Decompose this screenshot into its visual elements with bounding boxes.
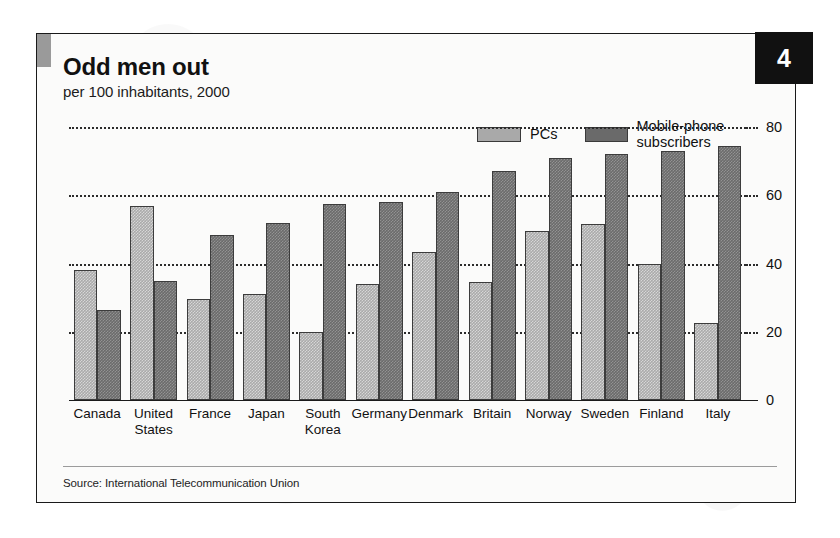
x-axis-labels: CanadaUnited StatesFranceJapanSouth Kore… [69, 406, 746, 452]
gridline-0 [69, 400, 746, 401]
x-axis-label: Norway [520, 406, 576, 422]
bars-layer [69, 127, 746, 400]
x-axis-label: France [182, 406, 238, 422]
bar-pcs[interactable] [638, 264, 662, 401]
tick-stub-60 [746, 195, 758, 197]
x-axis-label: Sweden [577, 406, 633, 422]
bar-mobile[interactable] [661, 151, 685, 400]
x-axis-label: United States [125, 406, 181, 438]
y-axis-tick-label: 80 [766, 119, 782, 135]
bar-pcs[interactable] [130, 206, 154, 401]
bar-group [525, 127, 572, 400]
y-axis-tick-label: 40 [766, 256, 782, 272]
bar-pcs[interactable] [356, 284, 380, 400]
bar-group [356, 127, 403, 400]
bar-group [412, 127, 459, 400]
source-note: Source: International Telecommunication … [63, 477, 299, 489]
bar-pcs[interactable] [525, 231, 549, 400]
bar-group [299, 127, 346, 400]
x-axis-label: South Korea [295, 406, 351, 438]
bar-group [130, 127, 177, 400]
tick-stub-20 [746, 332, 758, 334]
bar-mobile[interactable] [97, 310, 121, 400]
bar-pcs[interactable] [243, 294, 267, 400]
bar-group [638, 127, 685, 400]
bar-pcs[interactable] [299, 332, 323, 400]
bar-group [187, 127, 234, 400]
y-axis-tick-label: 60 [766, 187, 782, 203]
bar-mobile[interactable] [379, 202, 403, 400]
bar-pcs[interactable] [74, 270, 98, 400]
plot-area: 020406080 [69, 127, 746, 400]
bar-pcs[interactable] [187, 299, 211, 400]
tick-stub-80 [746, 127, 758, 129]
x-axis-label: Denmark [408, 406, 464, 422]
x-axis-label: Germany [351, 406, 407, 422]
bar-mobile[interactable] [549, 158, 573, 400]
bar-pcs[interactable] [469, 282, 493, 400]
bar-mobile[interactable] [154, 281, 178, 400]
x-axis-label: Canada [69, 406, 125, 422]
bar-mobile[interactable] [436, 192, 460, 400]
tick-stub-40 [746, 264, 758, 266]
y-axis-tick-label: 20 [766, 324, 782, 340]
chart-subtitle: per 100 inhabitants, 2000 [63, 83, 230, 100]
bar-mobile[interactable] [210, 235, 234, 401]
bar-pcs[interactable] [412, 252, 436, 400]
bar-mobile[interactable] [718, 146, 742, 400]
corner-accent-block [37, 34, 51, 67]
bar-mobile[interactable] [605, 154, 629, 400]
bar-group [581, 127, 628, 400]
bar-pcs[interactable] [581, 224, 605, 400]
bar-group [694, 127, 741, 400]
footer-divider [63, 466, 777, 467]
chart-title: Odd men out [63, 53, 209, 81]
x-axis-label: Finland [633, 406, 689, 422]
bar-mobile[interactable] [323, 204, 347, 400]
bar-group [243, 127, 290, 400]
x-axis-label: Britain [464, 406, 520, 422]
chart-card: 4 Odd men out per 100 inhabitants, 2000 … [36, 33, 796, 503]
x-axis-label: Japan [238, 406, 294, 422]
bar-mobile[interactable] [266, 223, 290, 400]
bar-group [74, 127, 121, 400]
bar-mobile[interactable] [492, 171, 516, 400]
x-axis-label: Italy [690, 406, 746, 422]
y-axis-tick-label: 0 [766, 392, 774, 408]
bar-group [469, 127, 516, 400]
tick-stub-0 [746, 400, 758, 401]
bar-pcs[interactable] [694, 323, 718, 400]
chart-number-badge: 4 [755, 32, 813, 84]
